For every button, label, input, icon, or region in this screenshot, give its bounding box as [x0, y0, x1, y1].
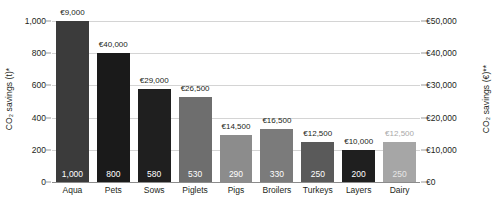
y-axis-left-tick-mark — [46, 149, 51, 150]
x-axis-category-label: Pigs — [216, 186, 257, 195]
y-axis-left-tick-label: 200 — [32, 146, 46, 155]
bar-value-label: 1,000 — [56, 170, 89, 179]
bar-slot: 800€40,000 — [93, 21, 134, 182]
y-axis-left-tick-mark — [46, 117, 51, 118]
x-axis-category-label: Dairy — [379, 186, 420, 195]
bar[interactable]: 530 — [179, 97, 212, 182]
x-axis-category-label: Layers — [338, 186, 379, 195]
bar-slot: 250€12,500 — [379, 21, 420, 182]
bar-value-label: 290 — [220, 170, 253, 179]
gridline — [52, 182, 420, 183]
y-axis-right-tick-label: €0 — [426, 178, 435, 187]
y-axis-left-tick-mark — [46, 21, 51, 22]
y-axis-left-tick-label: 0 — [41, 178, 46, 187]
bar-money-label: €29,000 — [128, 77, 181, 85]
bar[interactable]: 250 — [383, 142, 416, 182]
bar[interactable]: 290 — [220, 135, 253, 182]
bar-money-label: €12,500 — [373, 130, 426, 138]
y-axis-right-tick-label: €30,000 — [426, 81, 457, 90]
y-axis-left-tick-label: 800 — [32, 49, 46, 58]
y-axis-right-tick-label: €50,000 — [426, 17, 457, 26]
y-axis-left-tick-mark — [46, 182, 51, 183]
bar-value-label: 250 — [301, 170, 334, 179]
y-axis-left-title: CO₂ savings (t)* — [4, 54, 14, 144]
bar-value-label: 530 — [179, 170, 212, 179]
bar-slot: 530€26,500 — [175, 21, 216, 182]
bar-money-label: €26,500 — [169, 85, 222, 93]
bar-money-label: €16,500 — [250, 117, 303, 125]
bar-value-label: 800 — [97, 170, 130, 179]
y-axis-right-title: CO₂ savings (€)** — [481, 54, 491, 144]
bar-value-label: 200 — [342, 170, 375, 179]
bar-money-label: €10,000 — [332, 138, 385, 146]
y-axis-right-tick-label: €20,000 — [426, 113, 457, 122]
y-axis-right-tick-label: €10,000 — [426, 146, 457, 155]
x-axis-category-label: Turkeys — [297, 186, 338, 195]
y-axis-left-tick-label: 400 — [32, 113, 46, 122]
bar-series: 1,000€9,000800€40,000580€29,000530€26,50… — [52, 21, 420, 182]
bar-slot: 290€14,500 — [216, 21, 257, 182]
bar[interactable]: 580 — [138, 89, 171, 182]
bar-chart: CO₂ savings (t)* CO₂ savings (€)** 02004… — [0, 0, 497, 211]
bar[interactable]: 250 — [301, 142, 334, 182]
bar-slot: 250€12,500 — [297, 21, 338, 182]
y-axis-right-tick-label: €40,000 — [426, 49, 457, 58]
y-axis-left-tick-label: 600 — [32, 81, 46, 90]
bar[interactable]: 1,000 — [56, 21, 89, 182]
bar[interactable]: 800 — [97, 53, 130, 182]
y-axis-left-tick-mark — [46, 53, 51, 54]
bar-slot: 330€16,500 — [256, 21, 297, 182]
bar-money-label: €12,500 — [291, 130, 344, 138]
bar-slot: 580€29,000 — [134, 21, 175, 182]
x-axis-category-label: Piglets — [175, 186, 216, 195]
x-axis-category-label: Sows — [134, 186, 175, 195]
x-axis-category-label: Aqua — [52, 186, 93, 195]
bar-value-label: 580 — [138, 170, 171, 179]
bar-money-label: €40,000 — [87, 41, 140, 49]
y-axis-left-tick-label: 1,000 — [25, 17, 46, 26]
bar-value-label: 250 — [383, 170, 416, 179]
bar-slot: 200€10,000 — [338, 21, 379, 182]
x-axis-category-label: Broilers — [256, 186, 297, 195]
y-axis-left-tick-mark — [46, 85, 51, 86]
bar-value-label: 330 — [260, 170, 293, 179]
x-axis-category-label: Pets — [93, 186, 134, 195]
bar[interactable]: 200 — [342, 150, 375, 182]
bar-money-label: €9,000 — [46, 9, 99, 17]
bar[interactable]: 330 — [260, 129, 293, 182]
plot-area: 02004006008001,000 €0€10,000€20,000€30,0… — [52, 21, 420, 182]
